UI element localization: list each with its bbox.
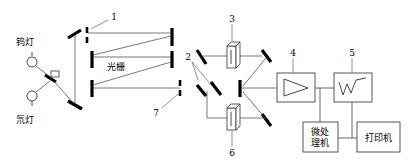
deuterium-lamp-label: 氘灯 xyxy=(16,114,34,125)
callout-3-label: 3 xyxy=(229,14,235,24)
sample-cell-front-face xyxy=(227,108,236,130)
ray-collimator-to-grating xyxy=(93,36,171,55)
callout-1-label: 1 xyxy=(111,12,117,22)
chopper-mirror xyxy=(211,82,221,95)
source-select-mirror-mount xyxy=(51,71,59,77)
ray-lower-to-detector xyxy=(243,92,266,119)
sample-compartment-section: 2 3 xyxy=(185,14,271,158)
callout-7-label: 7 xyxy=(153,108,159,118)
sample-cell-6 xyxy=(227,104,240,130)
mirror-upper-right-fold xyxy=(262,50,271,62)
reference-cell-3 xyxy=(227,42,240,68)
monochromator-section: 1 光栅 7 xyxy=(68,12,180,118)
electronics-section: 4 5 微处 理机 打印机 xyxy=(241,48,400,153)
deuterium-lamp-bulb xyxy=(27,91,37,101)
beam-splitter-leader-b xyxy=(192,62,212,86)
sample-cell-side-face xyxy=(236,104,240,130)
ray-mid-mirror-to-focus xyxy=(93,62,171,85)
beam-splitter-leader-a xyxy=(192,62,198,80)
light-source-section: 钨灯 氘灯 xyxy=(16,36,74,125)
reference-cell-side-face xyxy=(236,42,240,68)
callout-4-label: 4 xyxy=(290,48,296,58)
beam-splitter-mirror-upper xyxy=(197,50,206,64)
callout-2-label: 2 xyxy=(185,52,191,62)
ray-mirror-to-fold xyxy=(54,81,74,104)
grating-label: 光栅 xyxy=(107,61,125,72)
diagram-canvas: 钨灯 氘灯 1 xyxy=(0,0,411,168)
spectrophotometer-diagram: 钨灯 氘灯 1 xyxy=(0,0,411,168)
reference-cell-front-face xyxy=(227,46,236,68)
tungsten-lamp-bulb xyxy=(27,57,37,67)
beam-splitter-mirror-lower xyxy=(197,85,206,96)
ray-deuterium-to-mirror xyxy=(36,81,50,92)
callout-6-label: 6 xyxy=(229,148,235,158)
amplifier-box[interactable] xyxy=(277,73,315,102)
entrance-slit-leader xyxy=(91,20,108,29)
microprocessor-label-line1: 微处 xyxy=(311,126,329,137)
microprocessor-label-line2: 理机 xyxy=(311,137,329,148)
printer-label: 打印机 xyxy=(365,132,392,143)
ray-upper-to-detector xyxy=(243,58,266,86)
tungsten-lamp-label: 钨灯 xyxy=(16,36,34,47)
mirror-top-left-fold xyxy=(68,30,81,38)
callout-5-label: 5 xyxy=(349,48,355,58)
exit-slit-leader xyxy=(162,94,178,108)
